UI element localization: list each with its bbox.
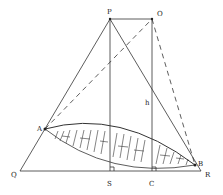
right-angle-S xyxy=(110,167,114,171)
label-R: R xyxy=(205,171,211,179)
edge-PQ xyxy=(20,19,110,171)
label-A: A xyxy=(36,125,43,133)
geometry-diagram: P O A B Q S C R h xyxy=(0,0,223,195)
label-O: O xyxy=(157,10,163,18)
point-B xyxy=(194,164,197,167)
dashed-AO xyxy=(45,19,152,129)
label-B: B xyxy=(198,160,203,168)
label-h: h xyxy=(145,99,150,107)
point-O xyxy=(151,18,153,20)
dashed-OB xyxy=(152,19,195,165)
edge-PR xyxy=(110,19,201,171)
right-angle-C xyxy=(152,167,156,171)
label-S: S xyxy=(107,180,112,188)
point-A xyxy=(44,128,47,131)
label-C: C xyxy=(149,180,154,188)
label-P: P xyxy=(107,8,112,16)
label-Q: Q xyxy=(11,171,17,179)
point-P xyxy=(109,18,111,20)
lower-arc xyxy=(45,129,195,168)
